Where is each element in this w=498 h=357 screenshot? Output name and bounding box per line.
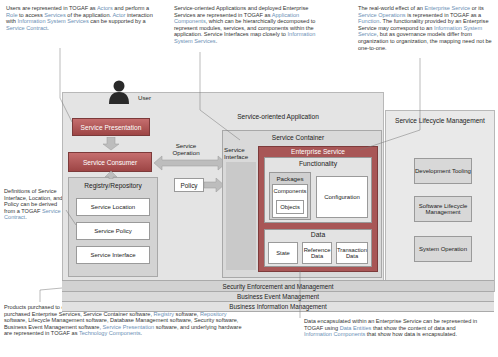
- leader-lines: [0, 0, 498, 357]
